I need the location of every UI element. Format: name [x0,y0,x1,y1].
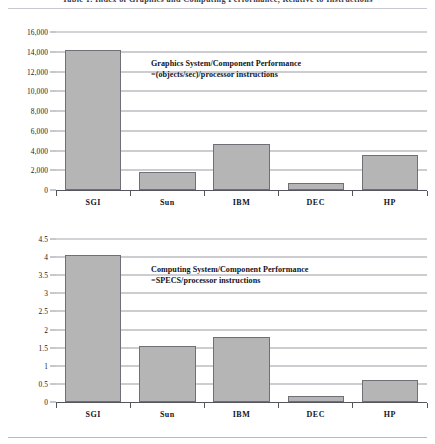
bar-slot [130,32,204,190]
y-axis-tick-label: 4.5 [38,235,48,244]
x-axis-label-sgi: SGI [56,410,130,419]
x-axis-label-ibm: IBM [204,410,278,419]
y-axis-tick-label: 10,000 [27,87,48,96]
chart-annotation-computing: Computing System/Component Performance =… [151,265,308,286]
x-axis-tick [427,403,428,408]
bar-sgi[interactable] [65,50,121,190]
bar-slot [353,32,427,190]
bar-slot [56,239,130,402]
y-axis-tick-label: 0 [44,186,48,195]
x-axis-tick [279,191,353,196]
chart-annotation-graphics: Graphics System/Component Performance =(… [151,59,301,80]
bar-sun[interactable] [139,172,195,190]
y-axis-tick-label: 4,000 [31,146,48,155]
x-axis-label-sun: Sun [130,410,204,419]
y-axis-tick [50,347,56,348]
y-axis-tick-label: 4 [44,253,48,262]
y-axis-tick-label: 2 [44,325,48,334]
bar-series [56,239,427,402]
bar-dec[interactable] [288,183,344,190]
bar-hp[interactable] [362,155,418,190]
y-axis-tick [50,402,56,403]
x-axis-tick [56,403,130,408]
x-axis-label-hp: HP [353,410,427,419]
chart-computing: 00.511.522.533.544.5 SGISunIBMDECHP Comp… [0,229,435,434]
y-axis-tick [50,311,56,312]
y-axis-tick [50,51,56,52]
y-axis-tick [50,275,56,276]
bar-slot [353,239,427,402]
bar-ibm[interactable] [213,144,269,190]
y-axis-tick-label: 12,000 [27,67,48,76]
x-axis-tick [279,403,353,408]
annotation-line-1: Computing System/Component Performance [151,265,308,274]
bar-hp[interactable] [362,380,418,402]
x-axis-label-hp: HP [353,198,427,207]
y-axis-tick-label: 6,000 [31,126,48,135]
bar-series [56,32,427,190]
bar-slot [56,32,130,190]
annotation-line-1: Graphics System/Component Performance [151,59,301,68]
x-axis-tick [353,403,427,408]
bar-slot [204,239,278,402]
x-axis-label-ibm: IBM [204,198,278,207]
bar-slot [130,239,204,402]
y-axis-tick [50,32,56,33]
y-axis-tick [50,130,56,131]
chart-graphics: 02,0004,0006,0008,00010,00012,00014,0001… [0,22,435,222]
y-axis-tick-label: 0.5 [38,379,48,388]
y-axis-tick [50,293,56,294]
y-axis-tick-label: 8,000 [31,107,48,116]
y-axis-tick-label: 3 [44,289,48,298]
bar-slot [279,32,353,190]
x-axis-tick [204,191,278,196]
bar-slot [204,32,278,190]
y-axis-tick-label: 3.5 [38,271,48,280]
x-axis-tick [353,191,427,196]
y-axis-tick [50,329,56,330]
y-axis-tick-label: 1 [44,361,48,370]
x-axis-tick [56,191,130,196]
annotation-line-2: =(objects/sec)/processor instructions [151,70,301,81]
annotation-line-2: =SPECS/processor instructions [151,276,308,287]
y-axis-tick-label: 16,000 [27,28,48,37]
y-axis-tick [50,150,56,151]
bar-sun[interactable] [139,346,195,402]
y-axis-tick-label: 0 [44,398,48,407]
y-axis-tick [50,190,56,191]
header-rule [8,8,427,9]
x-axis-tick [130,191,204,196]
footer-rule [8,437,427,438]
y-axis-tick [50,239,56,240]
y-axis-tick-label: 14,000 [27,47,48,56]
x-axis-labels: SGISunIBMDECHP [56,410,427,419]
figure-page: Table 1. Index of Graphics and Computing… [0,0,435,444]
x-axis-tick [427,191,428,196]
x-axis-label-dec: DEC [279,410,353,419]
y-axis-tick-label: 1.5 [38,343,48,352]
y-axis-tick [50,71,56,72]
x-axis-ticks [56,403,427,408]
y-axis-tick [50,365,56,366]
x-axis-label-sgi: SGI [56,198,130,207]
x-axis-ticks [56,191,427,196]
bar-slot [279,239,353,402]
running-head-text: Table 1. Index of Graphics and Computing… [8,0,427,4]
y-axis-tick [50,170,56,171]
x-axis-tick [130,403,204,408]
x-axis-label-dec: DEC [279,198,353,207]
y-axis-tick-label: 2.5 [38,307,48,316]
y-axis-tick [50,383,56,384]
bar-ibm[interactable] [213,337,269,402]
x-axis-labels: SGISunIBMDECHP [56,198,427,207]
running-head: Table 1. Index of Graphics and Computing… [8,0,427,4]
x-axis-tick [204,403,278,408]
bar-sgi[interactable] [65,255,121,402]
y-axis-tick [50,257,56,258]
y-axis-tick [50,111,56,112]
y-axis-tick-label: 2,000 [31,166,48,175]
y-axis-tick [50,91,56,92]
x-axis-label-sun: Sun [130,198,204,207]
